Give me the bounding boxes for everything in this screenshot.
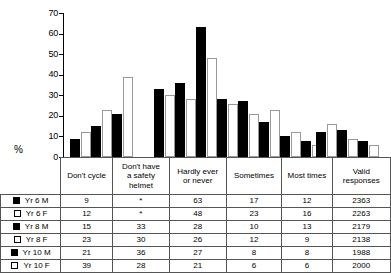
bar-yr-8-f-3	[291, 132, 301, 157]
legend-item-yr-8-f: Yr 8 F	[1, 234, 61, 247]
legend-swatch-icon	[11, 262, 18, 269]
bar-yr-10-m-1	[175, 83, 185, 157]
legend-label: Yr 10 F	[23, 261, 49, 271]
legend-label: Yr 10 M	[23, 248, 51, 258]
legend-label: Yr 8 M	[25, 222, 49, 232]
y-tick-label-50: 50	[18, 50, 58, 59]
bar-series-container	[64, 13, 372, 157]
bar-yr-10-m-2	[238, 101, 248, 157]
bar-group-1	[133, 13, 197, 157]
bar-yr-8-m-2	[217, 99, 227, 157]
bar-yr-10-m-4	[358, 141, 368, 157]
y-tick-label-30: 30	[18, 91, 58, 100]
table-header-c1: Don't cycle	[61, 158, 113, 195]
bar-group-3	[259, 13, 323, 157]
legend-label: Yr 6 M	[25, 196, 49, 206]
bar-yr-10-m-3	[301, 141, 311, 157]
table-row: Yr 6 F12*4823162263	[1, 208, 391, 221]
bar-yr-10-f-1	[186, 99, 196, 157]
bar-yr-8-m-3	[280, 136, 290, 157]
legend-item-yr-10-m: Yr 10 M	[1, 247, 61, 260]
table-cell-r1-c3: 23	[226, 208, 282, 221]
table-cell-r4-c2: 27	[169, 247, 226, 260]
table-cell-r2-c0: 15	[61, 221, 113, 234]
table-cell-r2-c4: 13	[282, 221, 332, 234]
table-cell-r0-c1: *	[112, 195, 169, 208]
table-cell-r1-c4: 16	[282, 208, 332, 221]
bar-yr-6-f-2	[207, 58, 217, 157]
table-header-c6: Validresponses	[332, 158, 390, 195]
bar-group-4	[316, 13, 380, 157]
legend-item-yr-6-m: Yr 6 M	[1, 195, 61, 208]
table-cell-r5-c1: 28	[112, 260, 169, 273]
table-cell-r3-c0: 23	[61, 234, 113, 247]
data-table: Don't cycleDon't havea safetyhelmetHardl…	[0, 157, 391, 273]
bar-yr-6-f-4	[327, 124, 337, 157]
bar-group-2	[196, 13, 260, 157]
table-cell-r4-c4: 8	[282, 247, 332, 260]
bar-yr-6-f-0	[81, 132, 91, 157]
bar-yr-10-f-0	[123, 77, 133, 157]
bar-yr-6-m-4	[316, 132, 326, 157]
table-cell-r0-c4: 12	[282, 195, 332, 208]
table-header-c4: Sometimes	[226, 158, 282, 195]
y-tick-label-40: 40	[18, 70, 58, 79]
y-tick-label-70: 70	[18, 9, 58, 18]
legend-swatch-icon	[13, 197, 20, 204]
table-cell-r5-c0: 39	[61, 260, 113, 273]
table-cell-r5-c2: 21	[169, 260, 226, 273]
y-tick-label-10: 10	[18, 132, 58, 141]
legend-swatch-icon	[14, 236, 21, 243]
table-cell-r0-c0: 9	[61, 195, 113, 208]
table-cell-r1-c0: 12	[61, 208, 113, 221]
bar-yr-6-m-3	[259, 122, 269, 157]
legend-label: Yr 8 F	[26, 235, 48, 245]
legend-item-yr-10-f: Yr 10 F	[1, 260, 61, 273]
table-cell-r2-c2: 28	[169, 221, 226, 234]
bar-yr-8-f-0	[102, 110, 112, 157]
table-row: Yr 8 M15332810132179	[1, 221, 391, 234]
table-cell-r1-c2: 48	[169, 208, 226, 221]
table-cell-r3-c3: 12	[226, 234, 282, 247]
table-cell-r1-c5: 2263	[332, 208, 390, 221]
table-cell-r0-c2: 63	[169, 195, 226, 208]
table-row: Yr 10 M213627881988	[1, 247, 391, 260]
table-cell-r3-c5: 2138	[332, 234, 390, 247]
table-cell-r4-c1: 36	[112, 247, 169, 260]
table-cell-r0-c3: 17	[226, 195, 282, 208]
bar-yr-8-m-4	[337, 130, 347, 157]
bar-yr-6-m-2	[196, 27, 206, 157]
table-cell-r3-c1: 30	[112, 234, 169, 247]
table-row: Yr 8 F2330261292138	[1, 234, 391, 247]
table-cell-r0-c5: 2363	[332, 195, 390, 208]
table-cell-r5-c3: 6	[226, 260, 282, 273]
legend-swatch-icon	[11, 249, 18, 256]
legend-item-yr-6-f: Yr 6 F	[1, 208, 61, 221]
table-cell-r2-c1: 33	[112, 221, 169, 234]
table-cell-r2-c5: 2179	[332, 221, 390, 234]
y-tick-label-20: 20	[18, 111, 58, 120]
legend-item-yr-8-m: Yr 8 M	[1, 221, 61, 234]
table-cell-r4-c5: 1988	[332, 247, 390, 260]
bar-yr-10-f-4	[369, 145, 379, 157]
table-header-c2: Don't havea safetyhelmet	[112, 158, 169, 195]
bar-chart-plot: % 706050403020100	[0, 0, 391, 158]
bar-yr-10-m-0	[112, 114, 122, 157]
table-header-c3: Hardly everor never	[169, 158, 226, 195]
table-header-row: Don't cycleDon't havea safetyhelmetHardl…	[1, 158, 391, 195]
legend-label: Yr 6 F	[26, 209, 48, 219]
bar-yr-6-f-3	[270, 110, 280, 157]
table-cell-r4-c3: 8	[226, 247, 282, 260]
bar-yr-8-f-1	[165, 95, 175, 157]
bar-yr-8-f-2	[228, 104, 238, 157]
table-corner-cell	[1, 158, 61, 195]
table-cell-r5-c5: 2000	[332, 260, 390, 273]
legend-swatch-icon	[14, 210, 21, 217]
table-cell-r4-c0: 21	[61, 247, 113, 260]
legend-swatch-icon	[13, 223, 20, 230]
y-tick-label-60: 60	[18, 29, 58, 38]
bar-yr-6-m-0	[70, 139, 80, 158]
bar-yr-8-m-0	[91, 126, 101, 157]
table-cell-r3-c4: 9	[282, 234, 332, 247]
